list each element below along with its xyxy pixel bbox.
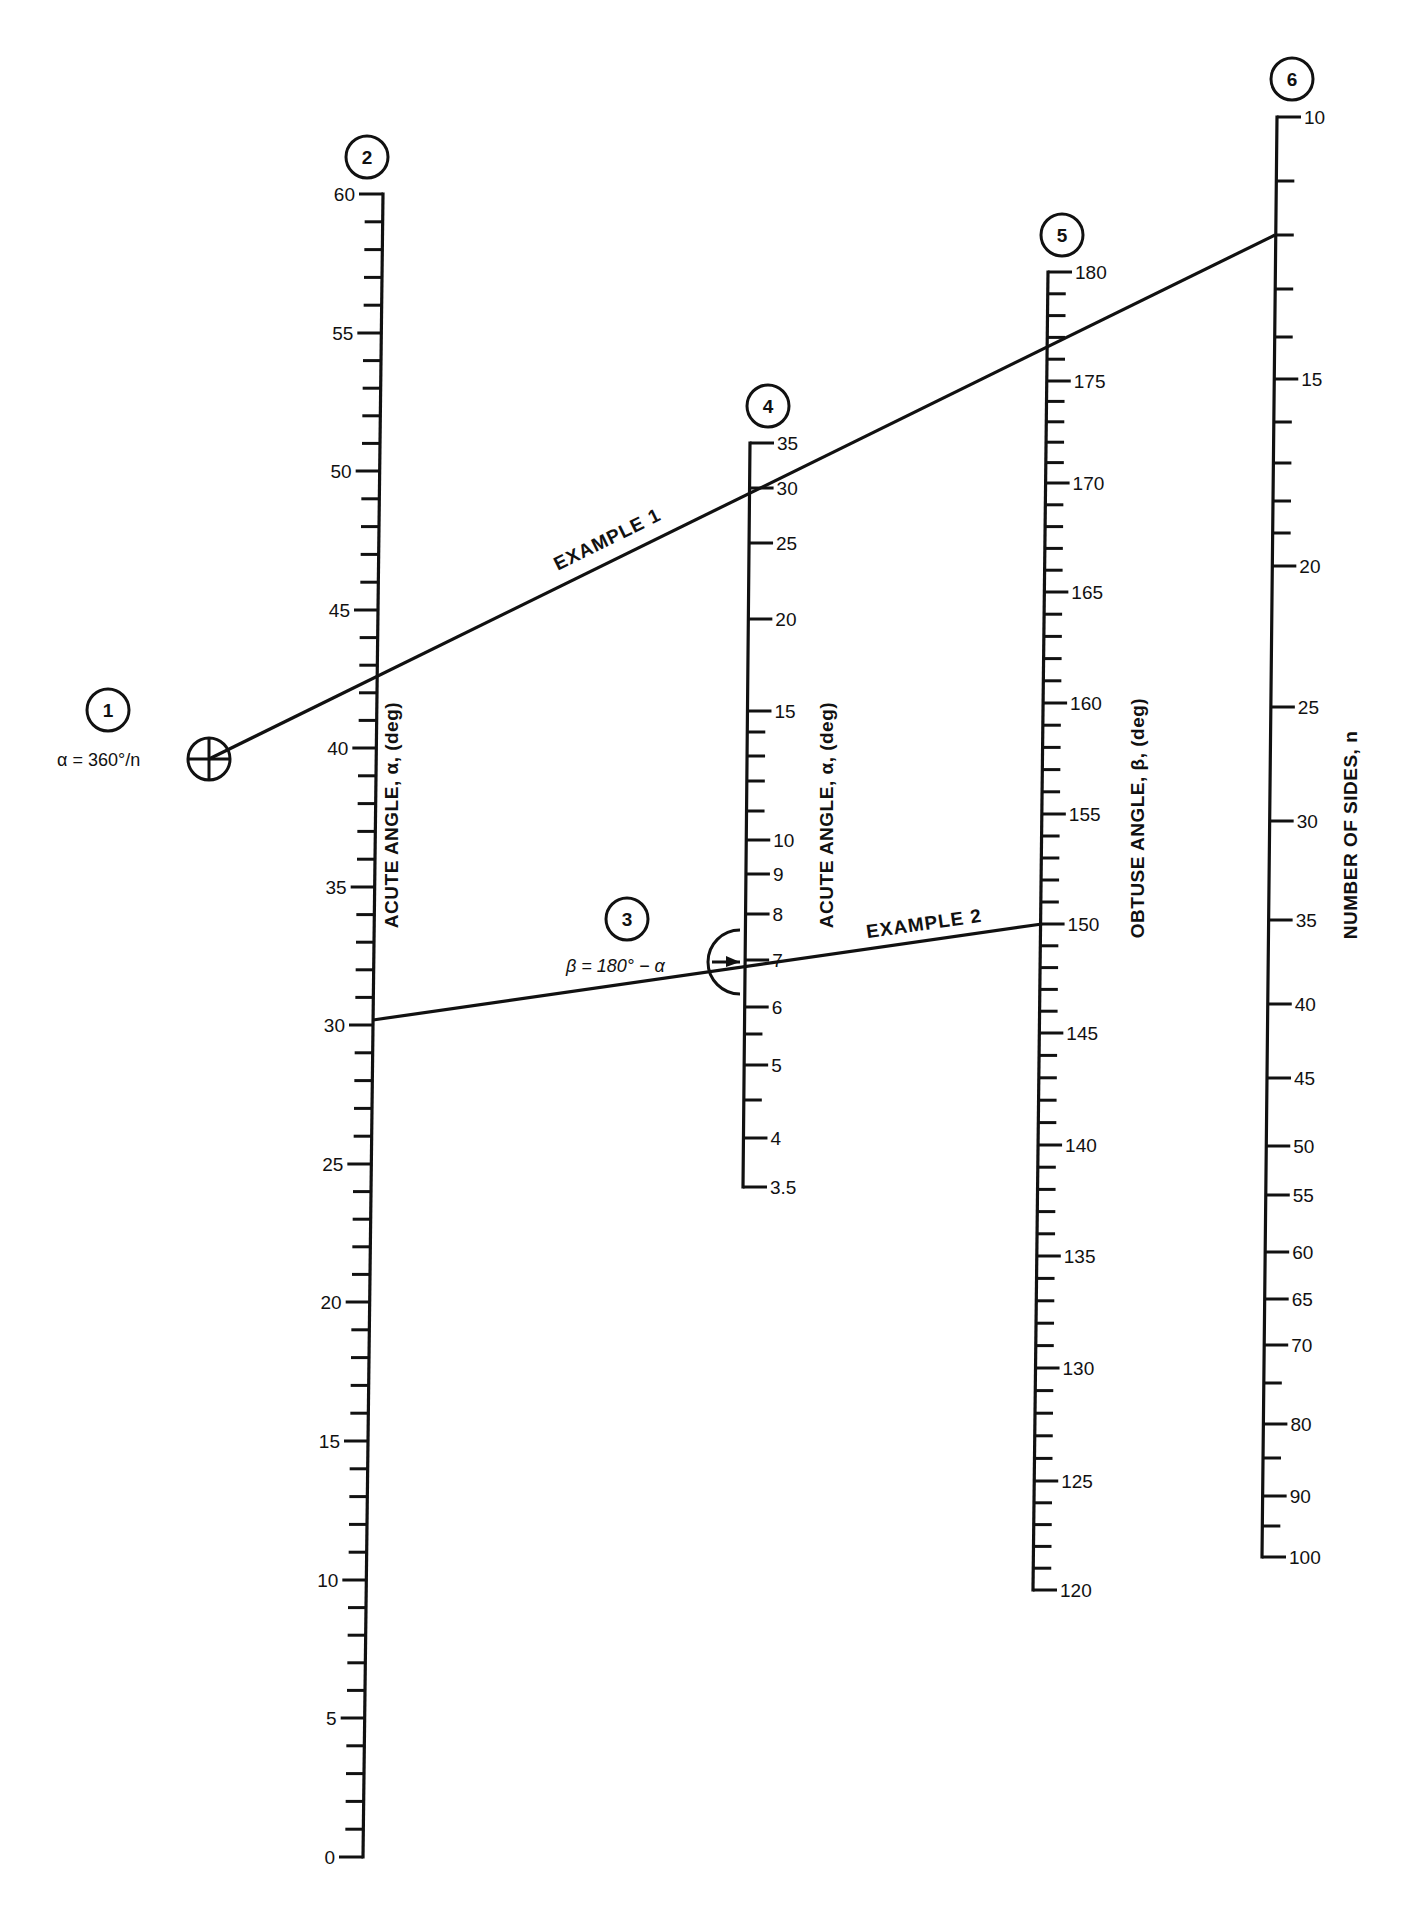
tick-label: 130	[1063, 1358, 1095, 1379]
tick-label: 35	[1296, 910, 1317, 931]
tick-label: 160	[1070, 693, 1102, 714]
alpha-formula: α = 360°/n	[57, 750, 140, 770]
tick-label: 45	[1294, 1068, 1315, 1089]
axis-title: NUMBER OF SIDES, n	[1340, 731, 1361, 940]
step-badge-2: 2	[346, 136, 388, 178]
step-number: 4	[763, 396, 774, 417]
axis-title: ACUTE ANGLE, α, (deg)	[381, 702, 402, 928]
tick-label: 55	[1293, 1185, 1314, 1206]
tick-label: 8	[773, 904, 784, 925]
step-number: 2	[362, 147, 373, 168]
tick-label: 30	[777, 478, 798, 499]
tick-label: 90	[1290, 1486, 1311, 1507]
tick-label: 145	[1066, 1023, 1098, 1044]
tick-label: 45	[329, 600, 350, 621]
tick-label: 35	[326, 877, 347, 898]
tick-label: 50	[331, 461, 352, 482]
step-badge-3: 3	[606, 898, 648, 940]
tick-label: 125	[1061, 1471, 1093, 1492]
tick-label: 4	[770, 1128, 781, 1149]
tick-label: 20	[775, 609, 796, 630]
tick-label: 10	[1304, 107, 1325, 128]
tick-label: 10	[773, 830, 794, 851]
tick-label: 25	[322, 1154, 343, 1175]
tick-label: 25	[776, 533, 797, 554]
tick-label: 40	[327, 738, 348, 759]
tick-label: 50	[1293, 1136, 1314, 1157]
tick-label: 150	[1068, 914, 1100, 935]
tick-label: 60	[334, 184, 355, 205]
tick-label: 20	[1299, 556, 1320, 577]
tick-label: 65	[1292, 1289, 1313, 1310]
tick-label: 9	[773, 864, 784, 885]
tick-label: 55	[332, 323, 353, 344]
tick-label: 165	[1071, 582, 1103, 603]
tick-label: 175	[1074, 371, 1106, 392]
step-badge-6: 6	[1271, 58, 1313, 100]
tick-label: 40	[1295, 994, 1316, 1015]
step-badge-5: 5	[1041, 214, 1083, 256]
background	[0, 0, 1424, 1911]
step-number: 6	[1287, 69, 1298, 90]
step-badge-1: 1	[87, 689, 129, 731]
tick-label: 5	[771, 1055, 782, 1076]
tick-label: 15	[319, 1431, 340, 1452]
tick-label: 6	[772, 997, 783, 1018]
tick-label: 0	[324, 1847, 335, 1868]
tick-label: 35	[777, 433, 798, 454]
tick-label: 170	[1073, 473, 1105, 494]
crosshair-pivot-icon	[188, 738, 230, 780]
step-number: 1	[103, 700, 114, 721]
step-number: 5	[1057, 225, 1068, 246]
tick-label: 15	[774, 701, 795, 722]
tick-label: 60	[1292, 1242, 1313, 1263]
axis-title: ACUTE ANGLE, α, (deg)	[816, 702, 837, 928]
tick-label: 140	[1065, 1135, 1097, 1156]
tick-label: 25	[1298, 697, 1319, 718]
step-number: 3	[622, 909, 633, 930]
tick-label: 10	[317, 1570, 338, 1591]
axis-title: OBTUSE ANGLE, β, (deg)	[1127, 698, 1148, 938]
beta-formula: β = 180° − α	[565, 956, 666, 976]
tick-label: 100	[1289, 1547, 1321, 1568]
tick-label: 30	[324, 1015, 345, 1036]
tick-label: 5	[326, 1708, 337, 1729]
polygon-angle-nomogram: 605550454035302520151050ACUTE ANGLE, α, …	[0, 0, 1424, 1911]
tick-label: 80	[1290, 1414, 1311, 1435]
tick-label: 70	[1291, 1335, 1312, 1356]
tick-label: 180	[1075, 262, 1107, 283]
tick-label: 120	[1060, 1580, 1092, 1601]
tick-label: 155	[1069, 804, 1101, 825]
tick-label: 135	[1064, 1246, 1096, 1267]
step-badge-4: 4	[747, 385, 789, 427]
tick-label: 3.5	[770, 1177, 796, 1198]
tick-label: 30	[1297, 811, 1318, 832]
tick-label: 15	[1301, 369, 1322, 390]
tick-label: 20	[321, 1292, 342, 1313]
